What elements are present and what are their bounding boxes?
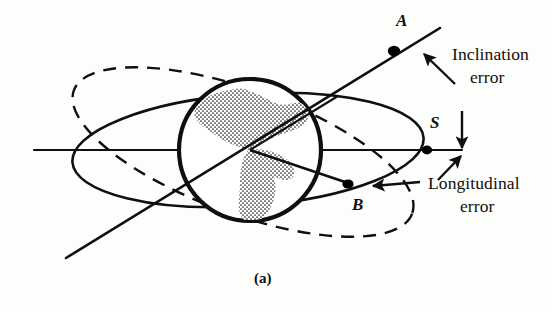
- inclination-error-arrow-icon: [424, 54, 455, 84]
- longitudinal-error-arrow-lower-icon: [373, 182, 420, 186]
- label-longitudinal-error-line1: Longitudinal: [428, 174, 520, 193]
- label-point-b: B: [352, 196, 363, 214]
- label-point-s: S: [430, 114, 439, 132]
- label-point-a: A: [396, 12, 407, 30]
- point-marker-dot-icon: [388, 46, 400, 56]
- label-inclination-error-line2: error: [470, 68, 505, 87]
- line-of-nodes-icon: [66, 28, 440, 258]
- label-longitudinal-error-line2: error: [460, 197, 495, 216]
- point-marker-dot-icon: [422, 146, 432, 155]
- label-inclination-error-line1: Inclination: [452, 45, 529, 64]
- figure-caption: (a): [254, 271, 272, 287]
- figure-container: A B S Inclination error Longitudinal err…: [0, 0, 552, 312]
- point-marker-dot-icon: [342, 179, 353, 188]
